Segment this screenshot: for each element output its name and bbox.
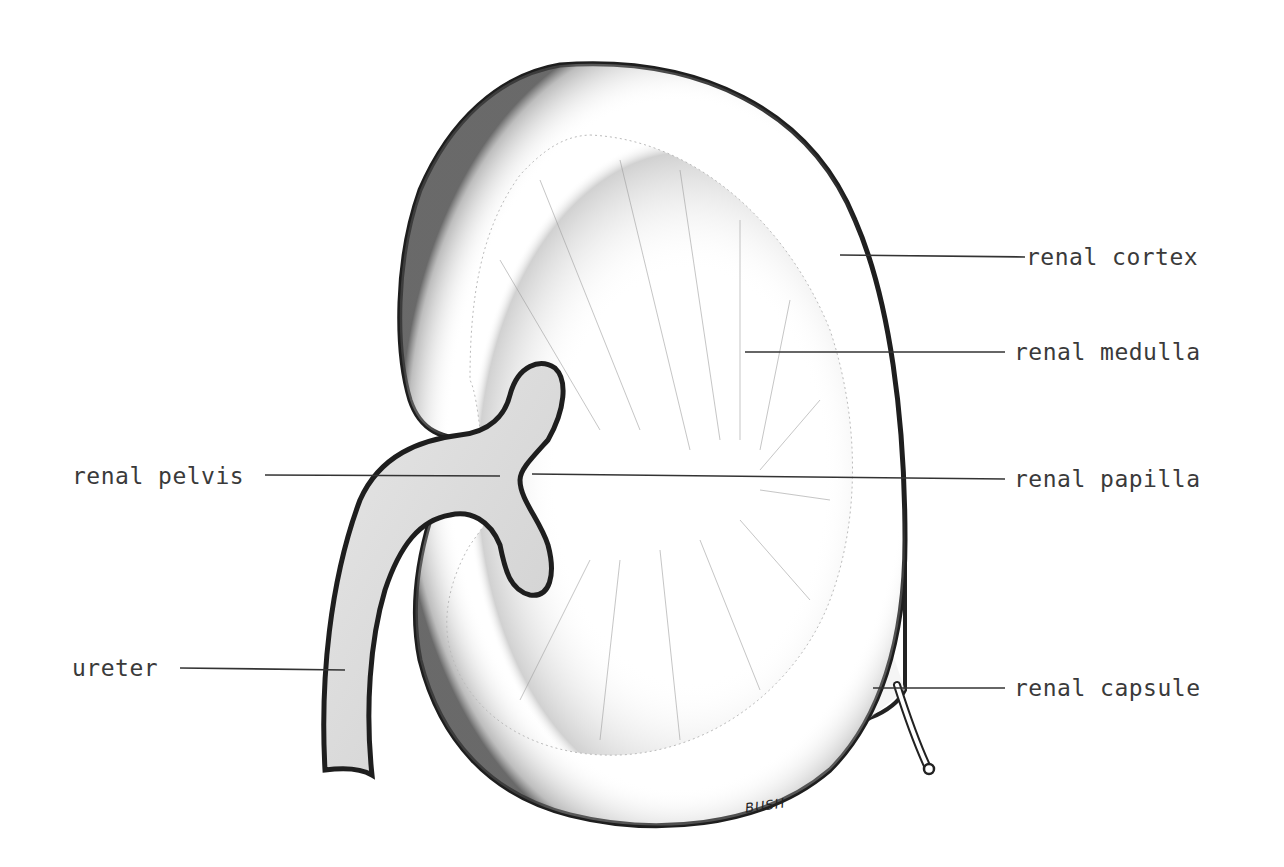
label-ureter: ureter <box>72 657 158 680</box>
label-renal-cortex: renal cortex <box>1026 246 1198 269</box>
label-renal-pelvis: renal pelvis <box>72 465 244 488</box>
label-renal-papilla: renal papilla <box>1014 468 1201 491</box>
label-renal-capsule: renal capsule <box>1014 677 1201 700</box>
leader-ureter <box>180 668 345 670</box>
label-renal-medulla: renal medulla <box>1014 341 1201 364</box>
kidney-illustration <box>0 0 1284 867</box>
leader-renal-pelvis <box>265 475 500 476</box>
kidney-diagram: renal cortex renal medulla renal pelvis … <box>0 0 1284 867</box>
